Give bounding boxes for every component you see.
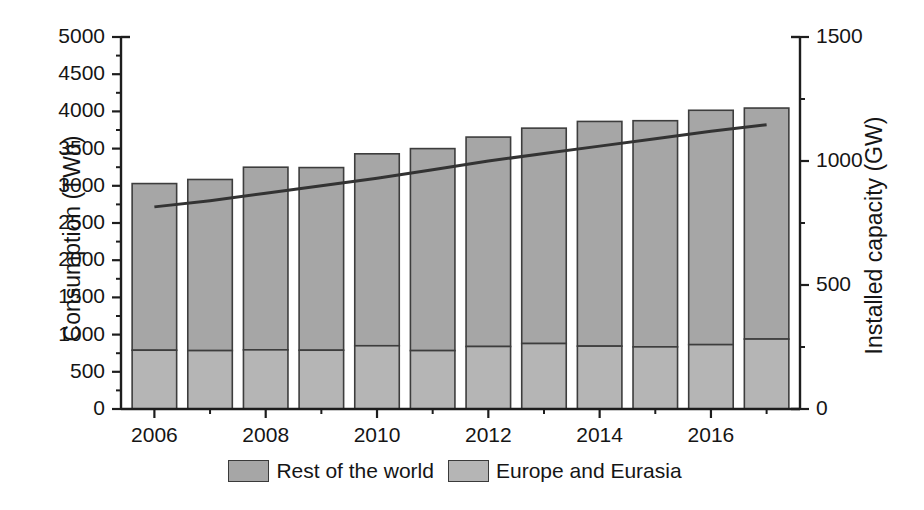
bar-segment-europe-and-eurasia [466,347,511,410]
bar-segment-europe-and-eurasia [299,350,344,409]
bar-segment-rest-of-the-world [466,137,511,346]
bar-group [299,168,344,409]
x-axis-tick-label: 2014 [555,423,645,447]
bar-segment-rest-of-the-world [132,184,177,351]
bar-segment-rest-of-the-world [744,108,789,339]
bar-segment-europe-and-eurasia [633,347,678,409]
bar-group [355,154,400,409]
y-axis-left-tick-label: 4500 [35,61,105,85]
bar-segment-rest-of-the-world [355,154,400,346]
y-axis-left-tick-label: 5000 [35,24,105,48]
legend-swatch-icon [448,460,489,482]
x-axis-tick-label: 2012 [443,423,533,447]
bar-group [522,128,567,409]
bar-segment-rest-of-the-world [522,128,567,343]
bar-segment-europe-and-eurasia [689,345,734,409]
legend-item: Europe and Eurasia [448,459,682,483]
y-axis-left-tick-label: 1500 [35,284,105,308]
y-axis-left-tick-label: 3000 [35,173,105,197]
bar-segment-rest-of-the-world [299,168,344,351]
bar-segment-europe-and-eurasia [243,350,288,409]
legend-label: Europe and Eurasia [496,459,682,483]
y-axis-left-tick-label: 1000 [35,322,105,346]
bar-group [466,137,511,409]
bar-segment-rest-of-the-world [410,149,455,351]
y-axis-left-tick-label: 4000 [35,98,105,122]
bar-segment-rest-of-the-world [577,121,622,346]
bar-segment-europe-and-eurasia [577,346,622,409]
bar-group [689,110,734,409]
bar-segment-rest-of-the-world [188,179,233,350]
y-axis-right-tick-label: 0 [816,396,886,420]
y-axis-left-tick-label: 2500 [35,210,105,234]
bar-segment-europe-and-eurasia [132,350,177,409]
bar-segment-rest-of-the-world [633,121,678,347]
x-axis-tick-label: 2016 [666,423,756,447]
bar-segment-rest-of-the-world [689,110,734,344]
chart-figure: Consumption (TWh) Installed capacity (GW… [0,0,924,510]
x-axis-tick-label: 2008 [221,423,311,447]
y-axis-left-tick-label: 0 [35,396,105,420]
y-axis-left-tick-label: 3500 [35,136,105,160]
bar-segment-europe-and-eurasia [410,351,455,409]
bar-group [132,184,177,409]
bar-group [744,108,789,409]
y-axis-right-tick-label: 1500 [816,24,886,48]
x-axis-tick-label: 2010 [332,423,422,447]
bar-group [410,149,455,409]
bar-group [577,121,622,409]
y-axis-right-tick-label: 1000 [816,148,886,172]
y-axis-right-title: Installed capacity (GW) [861,46,888,426]
bar-segment-europe-and-eurasia [522,344,567,409]
legend-label: Rest of the world [276,459,434,483]
chart-legend: Rest of the worldEurope and Eurasia [0,459,924,483]
bar-segment-europe-and-eurasia [744,339,789,409]
y-axis-left-tick-label: 500 [35,359,105,383]
legend-swatch-icon [228,460,269,482]
bar-group [243,167,288,409]
y-axis-left-tick-label: 2000 [35,247,105,271]
bar-segment-europe-and-eurasia [188,351,233,409]
legend-item: Rest of the world [228,459,434,483]
x-axis-tick-label: 2006 [109,423,199,447]
bar-group [188,179,233,409]
y-axis-right-tick-label: 500 [816,272,886,296]
bar-segment-europe-and-eurasia [355,346,400,409]
bars-layer [132,108,789,409]
bar-group [633,121,678,409]
